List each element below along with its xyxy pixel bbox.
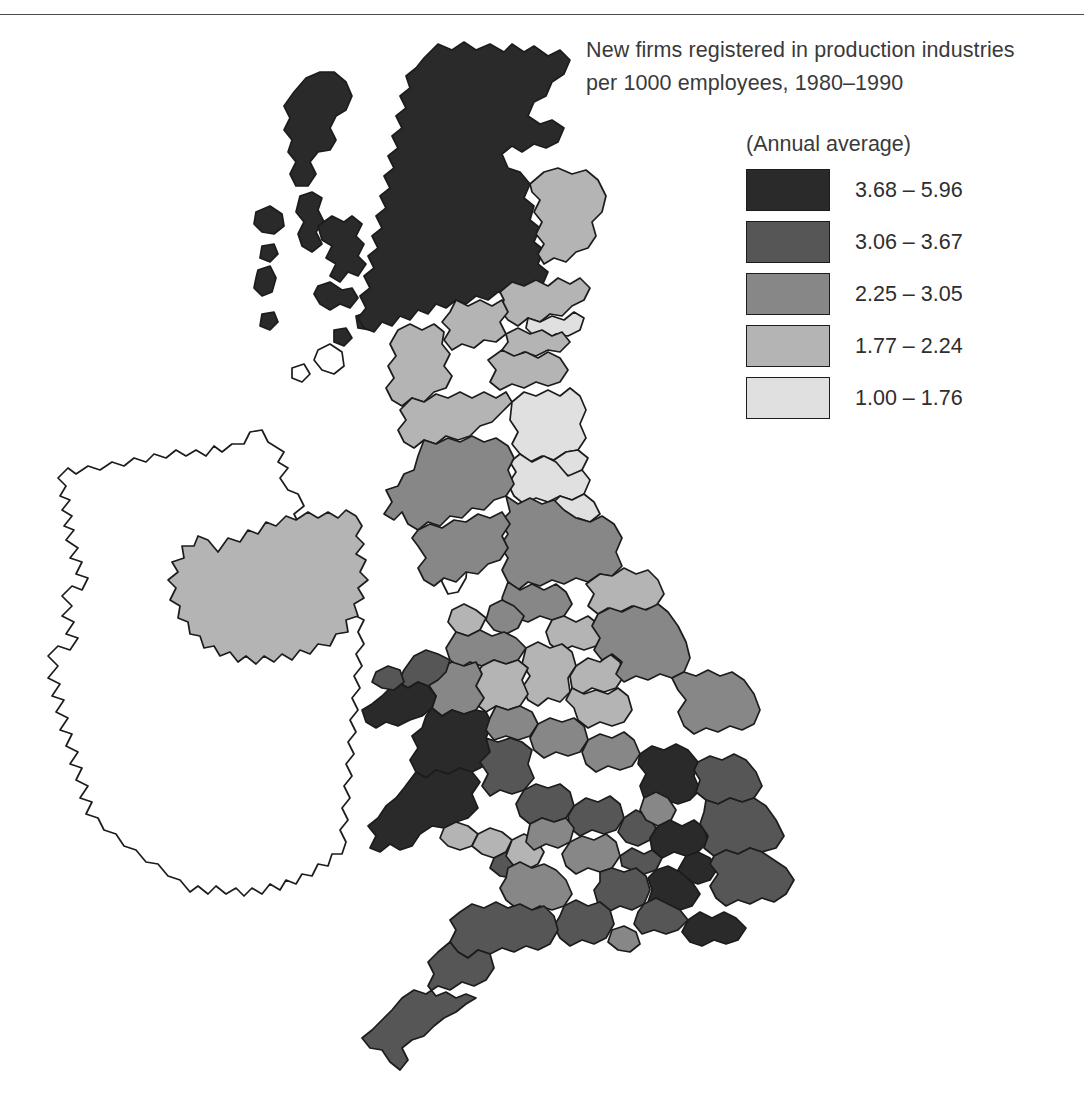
map-area-isle-of-wight — [608, 926, 640, 952]
map-area-west-midlands — [486, 706, 538, 740]
legend-label: 1.77 – 2.24 — [855, 334, 963, 359]
legend-swatch — [746, 325, 830, 367]
map-area-islay — [314, 344, 344, 374]
legend-swatch — [746, 273, 830, 315]
map-area-hebrides-islet-b — [254, 266, 276, 296]
map-area-avon — [526, 818, 574, 850]
map-area-powys — [410, 708, 492, 778]
map-area-outer-hebrides-south — [254, 206, 284, 234]
figure-title: New firms registered in production indus… — [586, 34, 1056, 100]
map-area-east-sussex — [682, 912, 746, 946]
map-areas — [48, 42, 794, 1070]
legend-item: 2.25 – 3.05 — [746, 273, 963, 315]
map-area-anglesey — [372, 666, 404, 690]
map-area-hebrides-islet-a — [260, 244, 278, 262]
map-area-kent — [710, 848, 794, 906]
map-area-islet-e — [334, 328, 352, 346]
map-area-norfolk — [672, 670, 760, 734]
map-legend: (Annual average) 3.68 – 5.96 3.06 – 3.67… — [746, 131, 963, 429]
map-area-grampian — [530, 168, 606, 264]
figure-page: New firms registered in production indus… — [0, 0, 1084, 1114]
map-area-mull — [314, 282, 358, 310]
map-area-republic-of-ireland — [48, 430, 364, 896]
map-area-hebrides-islet-c — [260, 312, 278, 330]
map-area-hereford-worcester — [480, 738, 534, 796]
map-area-cornwall — [362, 942, 494, 1070]
legend-item: 3.68 – 5.96 — [746, 169, 963, 211]
map-area-oxfordshire — [568, 796, 624, 836]
map-area-central-scotland — [442, 300, 508, 350]
map-area-suffolk — [694, 754, 762, 804]
map-area-outer-hebrides-north — [284, 72, 352, 186]
legend-swatch — [746, 221, 830, 263]
legend-item: 3.06 – 3.67 — [746, 221, 963, 263]
legend-label: 2.25 – 3.05 — [855, 282, 963, 307]
map-area-essex — [700, 798, 784, 856]
legend-swatch — [746, 377, 830, 419]
map-area-dorset — [554, 900, 614, 946]
legend-item: 1.00 – 1.76 — [746, 377, 963, 419]
figure-title-line-2: per 1000 employees, 1980–1990 — [586, 67, 1056, 100]
map-area-borders — [488, 350, 568, 390]
legend-label: 1.00 – 1.76 — [855, 386, 963, 411]
legend-item: 1.77 – 2.24 — [746, 325, 963, 367]
legend-caption: (Annual average) — [746, 131, 963, 157]
map-area-devon — [450, 902, 558, 958]
map-area-jura-islet — [292, 364, 310, 382]
map-area-outer-hebrides-mid — [296, 192, 324, 252]
legend-swatch — [746, 169, 830, 211]
map-area-lothian — [502, 328, 570, 358]
map-area-skye — [318, 216, 366, 282]
map-area-northamptonshire — [582, 732, 640, 772]
map-area-somerset — [500, 862, 572, 912]
map-area-warwickshire — [530, 718, 588, 758]
legend-label: 3.68 – 5.96 — [855, 178, 963, 203]
legend-label: 3.06 – 3.67 — [855, 230, 963, 255]
map-area-strathclyde-south — [386, 324, 452, 406]
figure-title-line-1: New firms registered in production indus… — [586, 34, 1056, 67]
